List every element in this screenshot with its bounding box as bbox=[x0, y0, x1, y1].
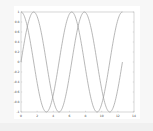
x-tick-label: 6 bbox=[68, 114, 70, 118]
y-tick-label: 0 bbox=[18, 60, 20, 64]
bottom-strip bbox=[0, 123, 153, 131]
figure-window: 02468101214-1-0.8-0.6-0.4-0.200.20.40.60… bbox=[0, 0, 153, 131]
y-tick-label: 0.4 bbox=[15, 40, 20, 44]
x-tick-label: 10 bbox=[100, 114, 104, 118]
y-tick-label: 1 bbox=[18, 10, 20, 14]
y-tick-label: -0.4 bbox=[14, 80, 20, 84]
line-chart: 02468101214-1-0.8-0.6-0.4-0.200.20.40.60… bbox=[0, 0, 153, 131]
y-tick-label: -0.8 bbox=[14, 100, 20, 104]
y-tick-label: -0.2 bbox=[14, 70, 20, 74]
y-tick-label: 0.8 bbox=[15, 20, 20, 24]
y-tick-label: -1 bbox=[17, 110, 20, 114]
x-tick-label: 2 bbox=[36, 114, 38, 118]
x-tick-label: 0 bbox=[20, 114, 22, 118]
y-tick-label: 0.6 bbox=[15, 30, 20, 34]
y-tick-label: 0.2 bbox=[15, 50, 20, 54]
x-tick-label: 12 bbox=[116, 114, 120, 118]
y-tick-label: -0.6 bbox=[14, 90, 20, 94]
x-tick-label: 8 bbox=[85, 114, 87, 118]
x-tick-label: 14 bbox=[132, 114, 136, 118]
x-tick-label: 4 bbox=[52, 114, 54, 118]
